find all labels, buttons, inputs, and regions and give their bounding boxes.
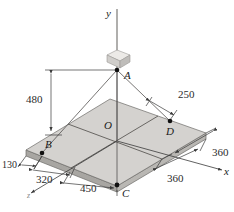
origin-o-label: O [104,120,112,131]
y-axis-label: y [106,8,111,19]
point-a-label: A [124,70,131,81]
dim-360-upper-label: 360 [212,147,229,158]
statics-figure: y x z A B C D O 480 250 130 320 450 360 … [0,0,234,212]
dim-320-label: 320 [36,174,53,185]
point-b-dot [40,151,45,156]
support-block [107,50,130,68]
z-axis-label: z [27,192,30,200]
dim-480-label: 480 [26,94,43,105]
dim-360-lower-label: 360 [167,173,184,184]
point-b-label: B [45,139,52,150]
dim-250-label: 250 [178,89,195,100]
point-c-label: C [122,188,129,199]
point-a-dot [115,68,120,73]
point-c-dot [115,183,120,188]
x-axis-label: x [224,166,229,177]
point-d-dot [168,119,173,124]
dim-450-label: 450 [80,183,97,194]
dim-130-label: 130 [2,160,17,170]
point-d-label: D [166,126,174,137]
